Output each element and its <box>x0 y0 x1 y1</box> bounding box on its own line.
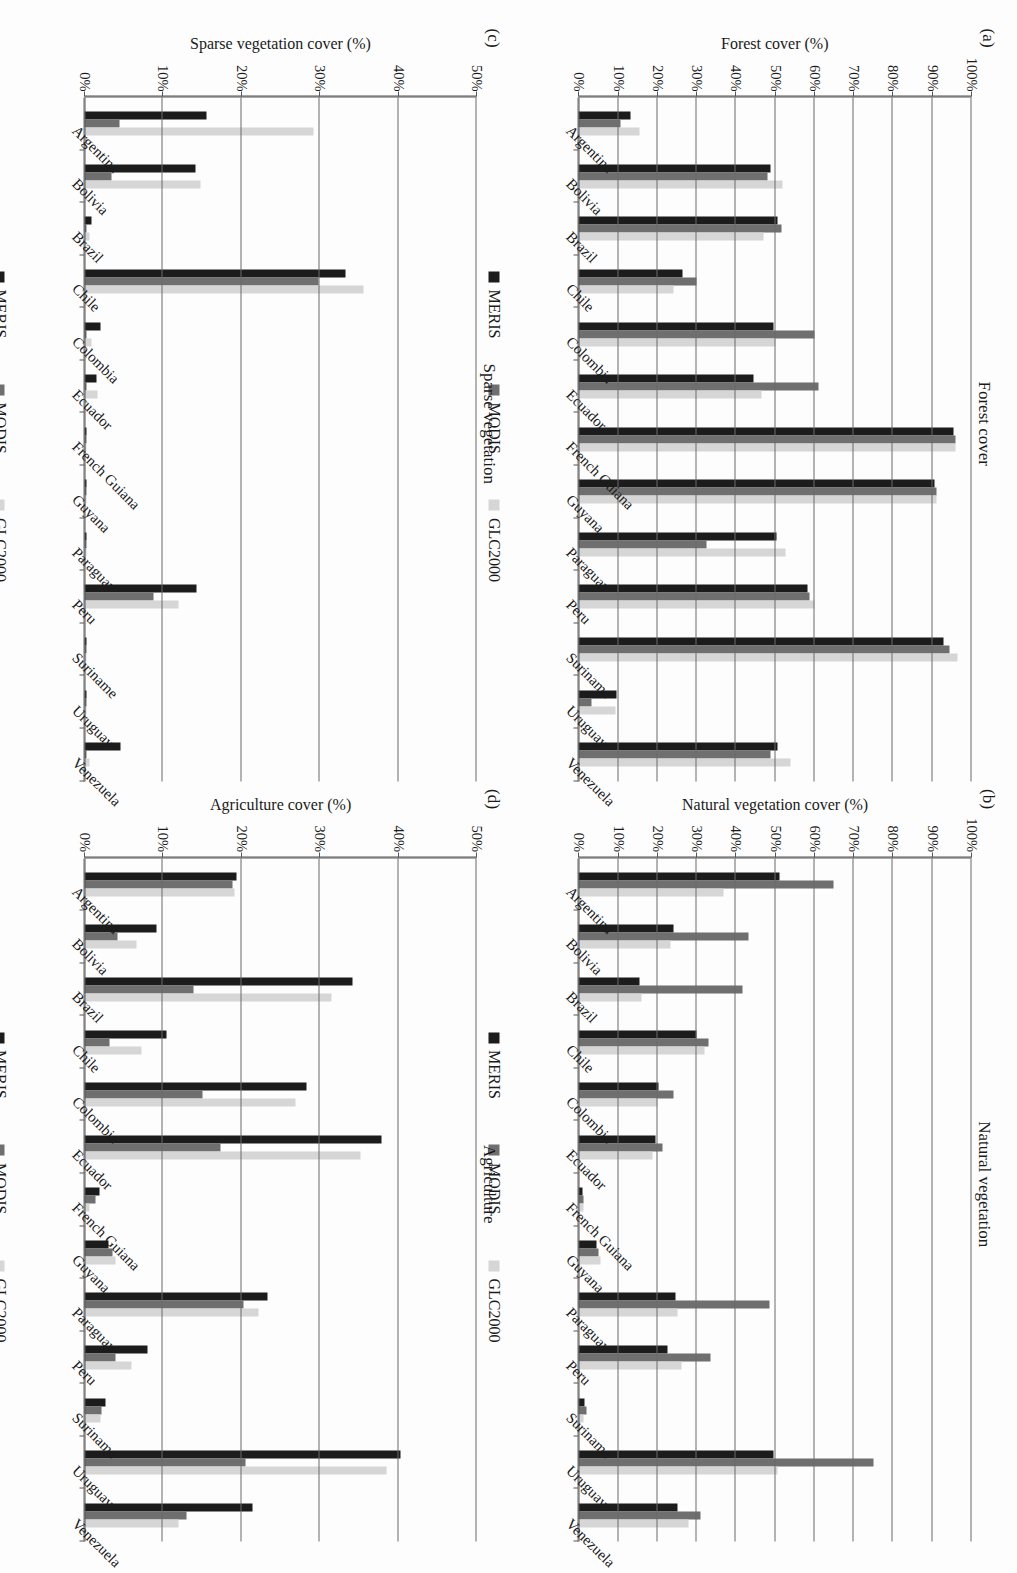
bar-group <box>84 1488 477 1541</box>
y-tick-mark <box>476 91 477 96</box>
bar <box>579 584 808 592</box>
bar <box>84 1398 105 1406</box>
bar <box>84 985 193 993</box>
bar <box>579 338 775 346</box>
legend-swatch-icon <box>0 1144 5 1155</box>
panel-title-b: Natural vegetation <box>973 793 993 1542</box>
bar <box>579 322 773 330</box>
gridline <box>852 858 853 1542</box>
y-tick-mark <box>398 852 399 857</box>
bar <box>579 1030 697 1038</box>
y-tick-label: 100% <box>963 57 980 91</box>
bar <box>84 322 100 330</box>
bar <box>579 872 779 880</box>
y-tick-mark <box>617 91 618 96</box>
bar <box>84 269 345 277</box>
bar <box>579 1151 653 1159</box>
y-tick-label: 0% <box>570 72 587 91</box>
gridline <box>931 858 932 1542</box>
panel-label-a: (a) <box>977 28 997 47</box>
gridline <box>319 858 320 1542</box>
y-axis-ticks-c: 0%10%20%30%40%50% <box>84 54 477 96</box>
bar-group <box>84 1226 477 1279</box>
gridline <box>774 858 775 1542</box>
bar <box>579 985 743 993</box>
bar-group <box>84 465 477 518</box>
gridline <box>695 858 696 1542</box>
y-tick-mark <box>853 91 854 96</box>
y-tick-label: 10% <box>154 825 171 852</box>
bar <box>579 390 762 398</box>
bar <box>84 1135 382 1143</box>
gridline <box>162 97 163 781</box>
bar <box>579 479 934 487</box>
panel-title-a: Forest cover <box>973 32 993 781</box>
y-axis-label-d: Agriculture cover (%) <box>84 793 477 815</box>
bar <box>579 1458 873 1466</box>
bar-group <box>84 97 477 150</box>
y-tick-label: 20% <box>233 825 250 852</box>
bar <box>84 1143 220 1151</box>
y-tick-label: 40% <box>727 64 744 91</box>
gridline <box>476 858 477 1542</box>
bar-group <box>84 858 477 911</box>
y-tick-mark <box>735 91 736 96</box>
bar <box>579 427 954 435</box>
bar-group <box>84 728 477 781</box>
y-tick-mark <box>814 852 815 857</box>
bar <box>579 653 957 661</box>
panel-label-b: (b) <box>977 789 997 809</box>
gridline <box>735 858 736 1542</box>
bar <box>579 1046 704 1054</box>
y-tick-mark <box>319 91 320 96</box>
gridline <box>319 97 320 781</box>
y-tick-label: 60% <box>806 64 823 91</box>
y-tick-mark <box>162 91 163 96</box>
bar <box>84 880 232 888</box>
legend-swatch-icon <box>0 271 5 282</box>
legend-label: GLC2000 <box>0 1278 8 1342</box>
panel-natural-vegetation: (b) Natural vegetation Natural vegetatio… <box>505 787 1000 1548</box>
y-tick-label: 50% <box>766 64 783 91</box>
bar <box>579 435 956 443</box>
bar <box>579 119 620 127</box>
bar-group <box>84 1120 477 1173</box>
y-axis-label-a: Forest cover (%) <box>579 32 972 54</box>
bar <box>84 600 178 608</box>
y-tick-mark <box>657 852 658 857</box>
bar <box>579 216 777 224</box>
bar <box>84 1406 101 1414</box>
y-tick-mark <box>853 852 854 857</box>
legend-c: MERISMODISGLC2000 <box>0 32 8 781</box>
bar <box>579 285 673 293</box>
y-tick-mark <box>931 91 932 96</box>
bar <box>84 111 206 119</box>
bar-group <box>84 675 477 728</box>
bar-series-d <box>84 858 477 1542</box>
gridline <box>656 97 657 781</box>
panel-forest-cover: (a) Forest cover Forest cover (%) 0%10%2… <box>505 26 1000 787</box>
y-tick-label: 90% <box>923 64 940 91</box>
bar <box>84 1511 186 1519</box>
x-axis-labels-c: ArgentinaBoliviaBrazilChileColombiaEcuad… <box>12 96 84 781</box>
gridline <box>397 97 398 781</box>
bar <box>579 1143 663 1151</box>
gridline <box>970 858 971 1542</box>
legend-item: GLC2000 <box>0 499 8 581</box>
legend-label: MODIS <box>0 1162 8 1214</box>
y-tick-mark <box>657 91 658 96</box>
y-axis-label-c: Sparse vegetation cover (%) <box>84 32 477 54</box>
legend-swatch-icon <box>0 1032 5 1043</box>
gridline <box>970 97 971 781</box>
bar <box>579 1308 677 1316</box>
y-tick-label: 30% <box>688 64 705 91</box>
bar <box>84 1466 386 1474</box>
bar <box>84 1450 400 1458</box>
y-tick-label: 0% <box>570 832 587 851</box>
y-tick-label: 30% <box>311 825 328 852</box>
x-axis-labels-a: ArgentinaBoliviaBrazilChileColombiaEcuad… <box>507 96 579 781</box>
panel-sparse-vegetation: (c) Sparse vegetation Sparse vegetation … <box>10 26 505 787</box>
bar-group <box>84 1436 477 1489</box>
bar <box>579 750 771 758</box>
legend-item: MODIS <box>0 1144 8 1214</box>
